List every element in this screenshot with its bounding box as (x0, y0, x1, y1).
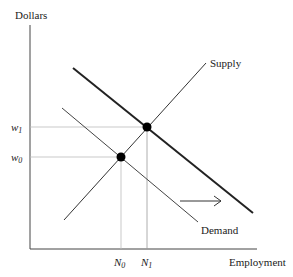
x-axis-label: Employment (229, 256, 286, 268)
supply-curve (64, 63, 206, 220)
supply-label: Supply (210, 57, 242, 69)
shift-right-arrow-icon (180, 196, 221, 206)
wage-label-w1: w1 (11, 121, 22, 135)
y-axis-label: Dollars (15, 9, 47, 21)
equilibrium-point-0 (117, 153, 126, 162)
demand-curve-initial (62, 108, 198, 222)
employment-label-n0: N0 (113, 256, 125, 270)
wage-label-w0: w0 (11, 151, 22, 165)
equilibrium-point-1 (143, 123, 152, 132)
employment-label-n1: N1 (140, 256, 152, 270)
demand-label: Demand (201, 224, 239, 236)
labor-market-diagram: Dollars Employment Supply Demand w1 w0 N… (0, 0, 293, 277)
